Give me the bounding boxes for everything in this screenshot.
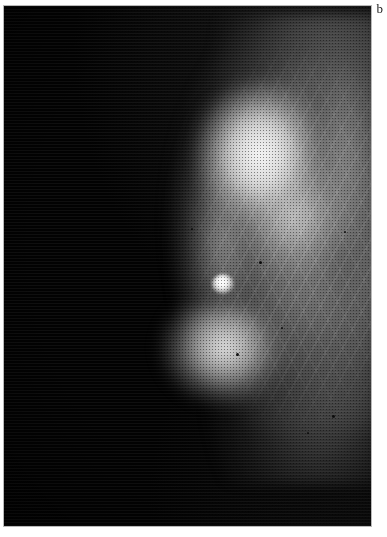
film-base-layer bbox=[4, 6, 371, 526]
panel-label: b bbox=[377, 2, 384, 15]
punctate-marker bbox=[344, 231, 346, 233]
punctate-marker bbox=[191, 228, 193, 230]
punctate-marker bbox=[307, 432, 309, 434]
punctate-marker bbox=[332, 415, 335, 418]
mammogram-radiograph bbox=[4, 6, 371, 526]
punctate-marker bbox=[236, 353, 239, 356]
punctate-marker bbox=[281, 327, 283, 329]
punctate-marker bbox=[259, 261, 262, 264]
figure-panel: b bbox=[0, 0, 387, 537]
